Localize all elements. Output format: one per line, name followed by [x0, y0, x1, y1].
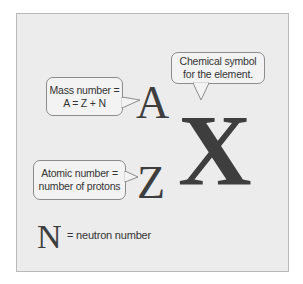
callout-mass-number-line2: A = Z + N — [63, 97, 106, 110]
callout-chemical-symbol-line2: for the element. — [183, 68, 253, 81]
atomic-number-symbol: Z — [137, 160, 165, 206]
callout-mass-number-line1: Mass number = — [49, 84, 119, 97]
element-symbol: X — [178, 100, 252, 202]
callout-mass-number: Mass number = A = Z + N — [46, 77, 123, 116]
callout-chemical-symbol: Chemical symbol for the element. — [171, 52, 265, 84]
callout-atomic-number-line2: number of protons — [39, 180, 121, 193]
callout-atomic-number: Atomic number = number of protons — [33, 160, 126, 200]
mass-number-symbol: A — [136, 80, 169, 126]
callout-chemical-symbol-line1: Chemical symbol — [180, 55, 257, 68]
neutron-label: = neutron number — [67, 229, 151, 241]
neutron-symbol: N — [37, 220, 62, 254]
callout-atomic-number-line1: Atomic number = — [41, 167, 118, 180]
